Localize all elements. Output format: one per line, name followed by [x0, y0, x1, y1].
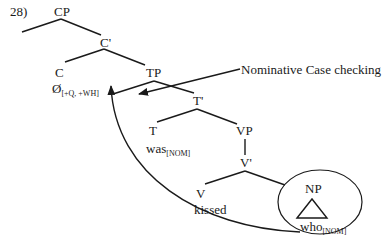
- example-number: 28): [10, 5, 27, 18]
- node-c-head: Ø[+Q, +WH]: [52, 82, 99, 100]
- node-c: C: [55, 66, 64, 79]
- node-c-bar: C': [100, 36, 111, 49]
- node-cp: CP: [54, 5, 70, 18]
- c-head-features: [+Q, +WH]: [61, 89, 98, 98]
- node-vp: VP: [236, 124, 253, 137]
- np-head-word: who: [300, 219, 322, 234]
- node-tp: TP: [146, 66, 161, 79]
- node-v: V: [196, 187, 205, 200]
- tree-branches: [0, 0, 383, 246]
- branch-cbar-tp: [104, 49, 145, 65]
- node-v-head: kissed: [194, 203, 227, 216]
- branch-tbar-t: [157, 109, 197, 122]
- t-head-features: [NOM]: [166, 149, 190, 158]
- node-t-head: was[NOM]: [146, 142, 190, 160]
- branch-tbar-vp: [197, 109, 237, 124]
- node-np: NP: [305, 182, 322, 195]
- node-t: T: [149, 124, 157, 137]
- branch-cp-spec: [22, 19, 61, 32]
- np-head-features: [NOM]: [322, 227, 346, 236]
- node-t-bar: T': [193, 94, 203, 107]
- branch-cp-cbar: [61, 19, 101, 35]
- branch-vbar-np: [245, 171, 285, 185]
- branch-vbar-v: [205, 171, 245, 184]
- branch-cbar-c: [65, 49, 104, 62]
- branch-tp-tbar: [154, 81, 194, 93]
- node-np-head: who[NOM]: [300, 220, 346, 238]
- np-triangle: [297, 199, 327, 218]
- case-checking-label: Nominative Case checking: [241, 63, 381, 76]
- node-v-bar: V': [240, 156, 252, 169]
- c-head-null: Ø: [52, 81, 61, 96]
- t-head-word: was: [146, 141, 166, 156]
